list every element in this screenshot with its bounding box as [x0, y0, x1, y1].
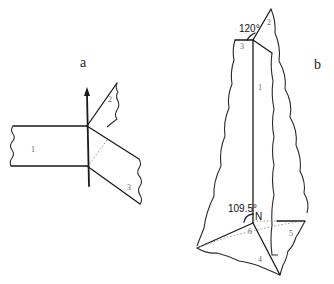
vertex-n-label: N	[255, 211, 262, 222]
panel-a: a 1 2 3	[10, 55, 141, 204]
face-3-outline	[197, 40, 235, 246]
bond-bottom	[253, 223, 280, 275]
face-6-label: 6	[248, 227, 252, 236]
plane-1: 1	[10, 126, 87, 166]
panel-a-label: a	[80, 55, 87, 70]
angle-120-label: 120°	[239, 23, 260, 34]
panel-b: b 120° 109.5° N 1 2 3 4 5 6	[197, 9, 321, 275]
arrowhead-icon	[84, 87, 90, 96]
plane-1-label: 1	[31, 145, 35, 154]
plane-2: 2	[87, 83, 119, 166]
panel-b-label: b	[314, 57, 321, 72]
axis-arrow	[84, 87, 90, 186]
plane-3: 3	[87, 126, 142, 204]
face-1-label: 1	[258, 83, 262, 92]
face-3-label: 3	[240, 42, 244, 51]
edge-1	[253, 40, 272, 53]
face-2-outline	[271, 9, 308, 213]
diagram-canvas: a 1 2 3 b 120°	[0, 0, 334, 284]
face-2-label: 2	[267, 18, 271, 27]
angle-109-arc	[244, 214, 253, 222]
angle-109-label: 109.5°	[228, 203, 257, 214]
plane-2-label: 2	[108, 95, 112, 104]
face-1-outline	[271, 53, 278, 255]
bond-left	[197, 223, 253, 248]
plane-3-label: 3	[127, 183, 131, 192]
face-5-label: 5	[289, 229, 293, 238]
face-4-label: 4	[258, 255, 262, 264]
